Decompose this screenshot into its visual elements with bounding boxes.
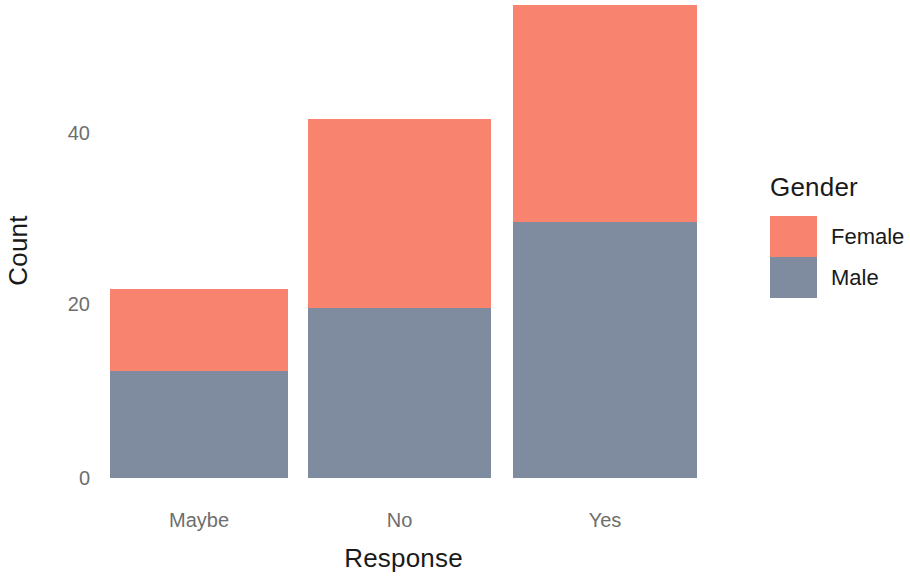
bar-group-yes[interactable] <box>513 5 697 478</box>
y-tick-label: 20 <box>18 294 90 314</box>
legend: Gender Female Male <box>770 172 910 298</box>
y-tick-label: 0 <box>18 468 90 488</box>
legend-swatch-female <box>770 216 817 257</box>
x-tick-label-maybe: Maybe <box>110 510 288 530</box>
plot-area <box>110 0 697 478</box>
legend-item-female[interactable]: Female <box>770 216 910 257</box>
legend-label-female: Female <box>831 226 904 248</box>
legend-label-male: Male <box>831 267 879 289</box>
x-tick-label-yes: Yes <box>513 510 697 530</box>
legend-title: Gender <box>770 172 910 202</box>
legend-swatch-male <box>770 257 817 298</box>
legend-item-male[interactable]: Male <box>770 257 910 298</box>
y-axis-tick-labels: 40 20 0 <box>18 0 90 577</box>
x-tick-label-no: No <box>308 510 491 530</box>
bar-segment-no-female[interactable] <box>308 119 491 308</box>
y-tick-label: 40 <box>18 123 90 143</box>
x-axis-title: Response <box>110 543 697 574</box>
bar-group-no[interactable] <box>308 119 491 478</box>
bar-segment-maybe-male[interactable] <box>110 371 288 478</box>
bar-group-maybe[interactable] <box>110 289 288 478</box>
bar-segment-yes-female[interactable] <box>513 5 697 222</box>
bar-segment-yes-male[interactable] <box>513 222 697 478</box>
chart-figure: Count 40 20 0 Maybe No Yes Response Gend… <box>0 0 910 577</box>
bar-segment-no-male[interactable] <box>308 308 491 478</box>
bar-segment-maybe-female[interactable] <box>110 289 288 371</box>
